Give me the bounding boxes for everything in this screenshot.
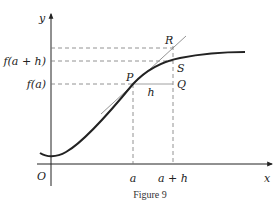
derivative-figure: y x O f(a + h) f(a) a a + h P Q R S h Fi… [0,0,280,205]
function-curve [40,52,245,156]
point-s-label: S [177,62,185,75]
point-r-label: R [164,34,173,47]
x-tick-a-plus-h: a + h [158,172,188,185]
segment-h-label: h [147,86,154,99]
y-tick-f-a: f(a) [26,78,46,91]
y-tick-f-a-plus-h: f(a + h) [2,55,46,68]
point-p-label: P [125,71,134,84]
dashed-guides [51,46,173,164]
figure-caption: Figure 9 [133,189,167,200]
origin-label: O [37,170,46,183]
x-tick-a: a [130,172,137,185]
y-axis-label: y [38,12,46,25]
point-q-label: Q [177,78,186,91]
x-axis-label: x [264,172,271,185]
